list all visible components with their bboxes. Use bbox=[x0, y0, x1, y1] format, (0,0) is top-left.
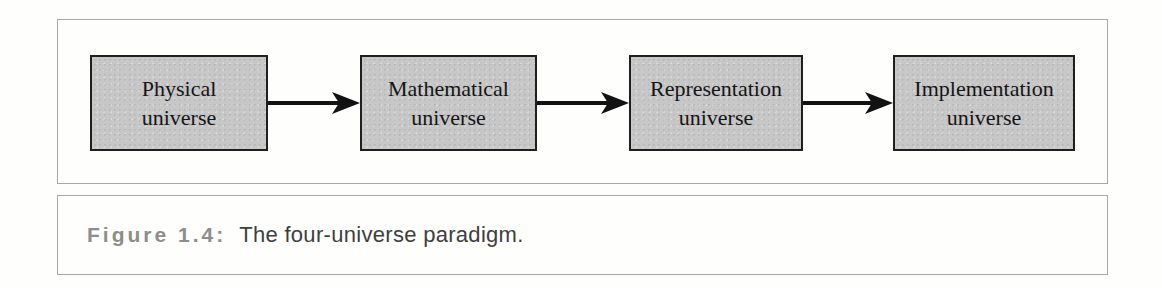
node-label-line1: Representation bbox=[650, 74, 782, 103]
flow-node-physical-universe: Physical universe bbox=[90, 55, 268, 151]
scanned-figure-page: Physical universe Mathematical universe … bbox=[0, 0, 1162, 288]
flow-node-mathematical-universe: Mathematical universe bbox=[360, 55, 537, 151]
node-label-line1: Mathematical bbox=[388, 74, 509, 103]
flow-node-implementation-universe: Implementation universe bbox=[893, 55, 1075, 151]
figure-caption-label: Figure 1.4: bbox=[87, 223, 226, 247]
node-label-line2: universe bbox=[142, 103, 217, 132]
node-label-line1: Physical bbox=[142, 74, 217, 103]
flow-node-representation-universe: Representation universe bbox=[629, 55, 803, 151]
node-label-line2: universe bbox=[679, 103, 754, 132]
node-label-line2: universe bbox=[411, 103, 486, 132]
figure-caption-text: The four-universe paradigm. bbox=[239, 222, 523, 248]
caption-panel: Figure 1.4: The four-universe paradigm. bbox=[57, 195, 1108, 275]
node-label-line1: Implementation bbox=[914, 74, 1053, 103]
node-label-line2: universe bbox=[947, 103, 1022, 132]
